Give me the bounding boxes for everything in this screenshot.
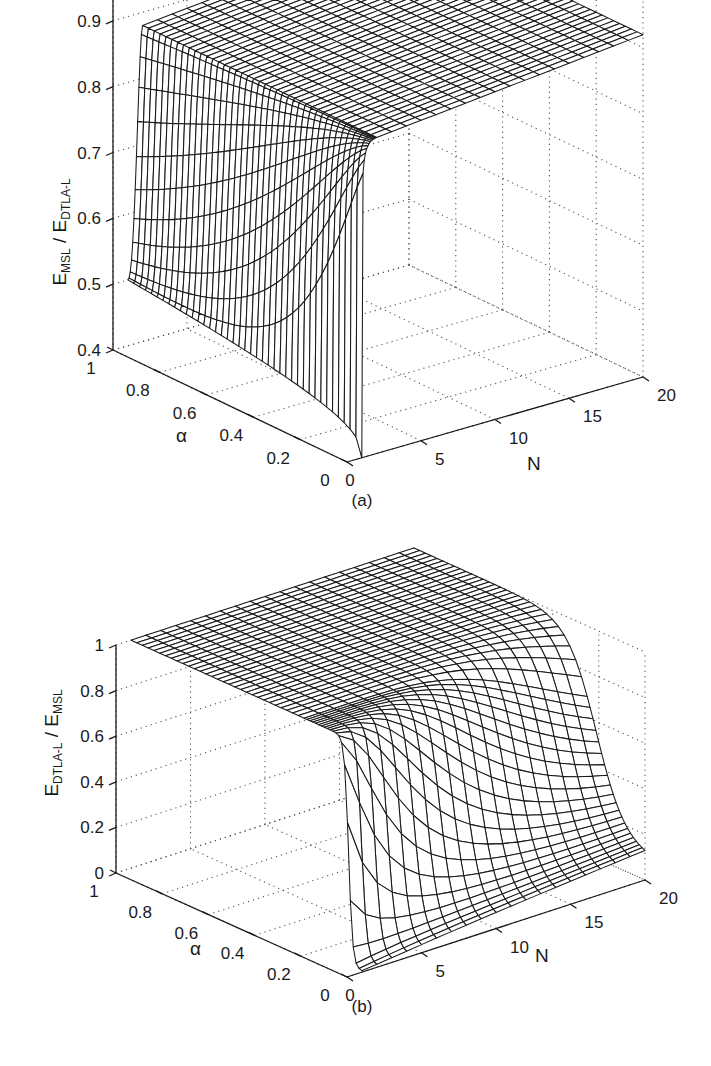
alpha-tick-label: 1: [86, 359, 95, 378]
alpha-tick-label: 0: [320, 986, 329, 1005]
alpha-tick-label: 0.2: [266, 449, 290, 468]
alpha-axis-title: α: [190, 938, 201, 959]
alpha-tick-label: 1: [89, 882, 98, 901]
z-tick-label: 0.6: [80, 727, 104, 746]
n-tick-label: 20: [659, 889, 678, 908]
surface-mesh: [128, 0, 643, 458]
z-tick-label: 0.6: [77, 209, 101, 228]
n-tick-label: 20: [657, 386, 676, 405]
n-axis-title: N: [535, 945, 549, 966]
alpha-tick-label: 0: [320, 471, 329, 490]
n-tick-label: 10: [510, 938, 529, 957]
alpha-tick-label: 0.8: [128, 903, 152, 922]
n-tick-label: 5: [435, 450, 444, 469]
panel-label: (a): [352, 491, 373, 510]
figure-b: 00.20.40.60.8100.20.40.60.8105101520αNED…: [0, 520, 711, 1066]
surface-plot-b: 00.20.40.60.8100.20.40.60.8105101520αNED…: [0, 520, 711, 1066]
z-tick-label: 0.7: [77, 144, 101, 163]
n-tick-label: 0: [345, 471, 354, 490]
z-tick-label: 0.4: [77, 341, 101, 360]
surface-mesh: [131, 548, 645, 971]
z-axis-title: EMSL / EDTLA-L: [49, 178, 73, 286]
figure-a: 0.40.50.60.70.80.9100.20.40.60.810510152…: [0, 0, 711, 520]
n-tick-label: 5: [436, 962, 445, 981]
z-tick-label: 0.2: [80, 818, 104, 837]
z-tick-label: 0.9: [77, 12, 101, 31]
z-tick-label: 0: [95, 864, 104, 883]
alpha-tick-label: 0.6: [173, 404, 197, 423]
panel-label: (b): [352, 997, 373, 1016]
n-tick-label: 15: [583, 407, 602, 426]
figure-caption: [0, 1052, 711, 1062]
alpha-tick-label: 0.8: [126, 381, 150, 400]
surface-plot-a: 0.40.50.60.70.80.9100.20.40.60.810510152…: [0, 0, 711, 520]
n-tick-label: 15: [585, 913, 604, 932]
z-tick-label: 0.8: [80, 682, 104, 701]
alpha-tick-label: 0.4: [221, 944, 245, 963]
alpha-tick-label: 0.2: [267, 965, 291, 984]
n-axis-title: N: [527, 453, 541, 474]
z-tick-label: 0.8: [77, 78, 101, 97]
z-tick-label: 0.4: [80, 773, 104, 792]
z-tick-label: 1: [95, 636, 104, 655]
alpha-tick-label: 0.4: [220, 426, 244, 445]
alpha-axis-title: α: [176, 425, 187, 446]
n-tick-label: 10: [509, 429, 528, 448]
z-axis-title: EDTLA-L / EMSL: [41, 689, 65, 797]
z-tick-label: 0.5: [77, 275, 101, 294]
